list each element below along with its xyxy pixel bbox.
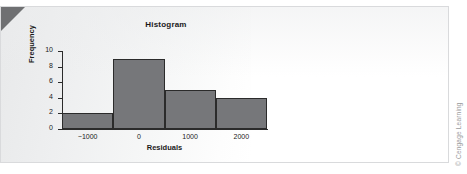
y-tick: 4: [58, 98, 62, 99]
y-axis-label: Frequency: [27, 25, 36, 63]
x-axis-label: Residuals: [62, 143, 267, 152]
y-tick-label: 2: [49, 108, 53, 115]
histogram-bar: [216, 98, 267, 129]
y-tick-label: 8: [49, 62, 53, 69]
histogram-bar: [62, 113, 113, 129]
histogram-chart: Histogram Frequency 0246810 −10000100020…: [1, 7, 449, 163]
figure-card: Histogram Frequency 0246810 −10000100020…: [0, 6, 449, 163]
y-tick-label: 10: [45, 46, 53, 53]
y-tick: 0: [58, 129, 62, 130]
chart-title: Histogram: [1, 20, 331, 29]
histogram-bar: [113, 59, 164, 129]
y-tick: 6: [58, 82, 62, 83]
y-tick: 8: [58, 67, 62, 68]
x-tick-label: −1000: [78, 133, 98, 140]
y-tick-label: 0: [49, 124, 53, 131]
plot-area: 0246810 −1000010002000: [62, 51, 267, 129]
x-axis-line: [62, 129, 268, 130]
histogram-bar: [165, 90, 216, 129]
copyright-credit: © Cengage Learning: [455, 102, 462, 166]
x-tick-label: 2000: [234, 133, 250, 140]
y-tick-label: 6: [49, 77, 53, 84]
y-tick: 10: [58, 51, 62, 52]
x-tick-label: 0: [137, 133, 141, 140]
x-tick-label: 1000: [182, 133, 198, 140]
y-tick-label: 4: [49, 93, 53, 100]
